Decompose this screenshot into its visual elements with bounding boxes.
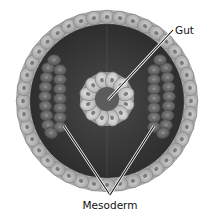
mesoderm-label: Mesoderm (83, 199, 138, 211)
cell (40, 72, 52, 82)
cell (161, 72, 173, 82)
nucleus (167, 95, 170, 98)
cell (162, 101, 174, 111)
nucleus (58, 97, 61, 100)
cell (54, 74, 66, 84)
nucleus (58, 69, 61, 72)
nucleus (46, 67, 49, 70)
cell (54, 103, 66, 113)
nucleus (58, 78, 61, 81)
nucleus (152, 97, 155, 100)
nucleus (105, 15, 109, 19)
nucleus (21, 99, 25, 103)
nucleus (44, 86, 47, 89)
nucleus (152, 69, 155, 72)
nucleus (58, 126, 61, 129)
nucleus (158, 59, 162, 62)
nucleus (152, 107, 155, 110)
cell (39, 82, 51, 92)
cell (54, 84, 66, 94)
cell (40, 110, 52, 120)
cell (148, 65, 160, 75)
nucleus (45, 114, 48, 117)
nucleus (152, 78, 155, 81)
nucleus (166, 114, 169, 117)
nucleus (167, 105, 170, 108)
nucleus (43, 95, 46, 98)
cell (39, 101, 51, 111)
cell (148, 103, 160, 113)
nucleus (152, 116, 155, 119)
gut-label: Gut (175, 24, 194, 36)
nucleus (45, 76, 48, 79)
nucleus (152, 88, 155, 91)
cell (148, 112, 160, 122)
nucleus (46, 124, 49, 127)
cell (39, 91, 51, 101)
cell (163, 91, 175, 101)
nucleus (189, 99, 193, 103)
cell (161, 110, 173, 120)
embryo-cross-section-diagram: Gut Mesoderm (0, 0, 209, 221)
nucleus (58, 107, 61, 110)
cell (162, 82, 174, 92)
nucleus (167, 86, 170, 89)
cell (54, 65, 66, 75)
cell (148, 84, 160, 94)
nucleus (164, 67, 167, 70)
cell (54, 112, 66, 122)
nucleus (44, 105, 47, 108)
nucleus (164, 124, 167, 127)
nucleus (166, 76, 169, 79)
cell (148, 74, 160, 84)
nucleus (58, 88, 61, 91)
cell (54, 93, 66, 103)
nucleus (52, 59, 56, 62)
cell (148, 93, 160, 103)
nucleus (58, 116, 61, 119)
cell (48, 55, 61, 65)
cell (154, 55, 167, 65)
